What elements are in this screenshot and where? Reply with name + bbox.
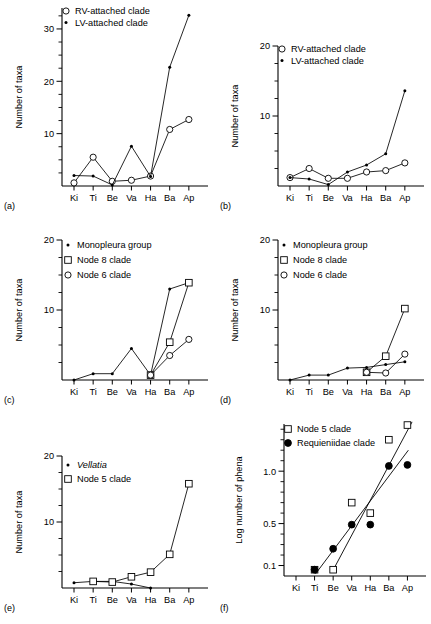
legend-label: Vellatia <box>77 460 107 470</box>
x-tick-label: Ha <box>364 583 377 593</box>
y-tick-label: 10 <box>44 517 54 527</box>
x-tick-label: Ha <box>361 387 374 397</box>
data-point <box>166 339 173 346</box>
data-point <box>90 154 96 160</box>
panel-d-legend: Monopleura groupNode 8 cladeNode 6 clade <box>281 240 368 280</box>
panel-b-series <box>287 89 408 186</box>
legend-marker <box>63 8 69 14</box>
panel-e-legend: VellatiaNode 5 clade <box>65 460 131 484</box>
panel-f-legend: Node 5 cladeRequieniidae clade <box>285 424 376 448</box>
data-point <box>128 573 135 580</box>
x-tick-label: Ki <box>70 193 78 203</box>
data-point <box>167 126 173 132</box>
x-tick-label: Be <box>107 595 118 605</box>
legend-label: Node 6 clade <box>293 270 347 280</box>
panel-e: 1020 KiTiBeVaHaBaAp VellatiaNode 5 clade… <box>0 448 215 624</box>
panel-e-letter: (e) <box>4 603 15 613</box>
data-point <box>383 370 389 376</box>
panel-f-xlabels: KiTiBeVaHaBaAp <box>292 576 413 593</box>
y-tick-label: 30 <box>44 24 54 34</box>
data-point <box>402 351 408 357</box>
data-point <box>92 372 95 375</box>
x-tick-label: Be <box>107 387 118 397</box>
y-tick-label: 10 <box>260 111 270 121</box>
data-point <box>73 581 76 584</box>
panel-f-ylabel: Log number of phena <box>234 455 244 543</box>
x-tick-label: Ba <box>164 387 176 397</box>
legend-label: Node 6 clade <box>77 270 131 280</box>
panel-f-letter: (f) <box>220 603 229 613</box>
data-point <box>149 175 152 178</box>
y-tick-label: 20 <box>44 451 54 461</box>
panel-c-series <box>73 279 193 381</box>
x-tick-label: Be <box>107 193 118 203</box>
series-line <box>93 484 189 582</box>
x-tick-label: Ha <box>145 387 158 397</box>
data-point <box>71 180 77 186</box>
data-point <box>384 152 387 155</box>
data-point <box>186 279 193 286</box>
data-point <box>325 175 331 181</box>
x-tick-label: Ba <box>164 595 176 605</box>
data-point <box>186 336 192 342</box>
x-tick-label: Ti <box>89 595 96 605</box>
legend-marker <box>281 257 288 264</box>
panel-d-series <box>289 305 409 381</box>
panel-d-plot: 1020 KiTiBeVaHaBaAp Monopleura groupNode… <box>216 232 431 414</box>
figure-panel-grid: 102030 KiTiBeVaHaBaAp RV-attached cladeL… <box>0 0 431 624</box>
legend-marker <box>65 21 68 24</box>
data-point <box>363 169 369 175</box>
y-tick-label: 0.5 <box>263 519 276 529</box>
x-tick-label: Va <box>342 193 353 203</box>
data-point <box>383 168 389 174</box>
x-tick-label: Ap <box>399 193 410 203</box>
data-point <box>73 174 76 177</box>
x-tick-label: Va <box>126 387 137 397</box>
legend-marker <box>65 476 72 483</box>
data-point <box>330 545 337 552</box>
legend-marker <box>283 244 286 247</box>
legend-marker <box>281 272 287 278</box>
legend-label: Node 5 clade <box>297 424 351 434</box>
legend-marker <box>65 257 72 264</box>
panel-f-yticks: 0.10.51.0 <box>263 429 284 571</box>
panel-a-axes <box>62 8 208 186</box>
panel-c-yticks: 1020 <box>44 235 62 362</box>
panel-d-xlabels: KiTiBeVaHaBaAp <box>286 380 411 397</box>
data-point <box>92 175 95 178</box>
data-point <box>404 422 411 429</box>
data-point <box>382 353 389 360</box>
legend-label: Monopleura group <box>293 240 368 250</box>
x-tick-label: Va <box>342 387 353 397</box>
x-tick-label: Ap <box>183 595 194 605</box>
legend-label: RV-attached clade <box>291 44 366 54</box>
panel-b-yticks: 1020 <box>260 41 278 168</box>
series-line <box>151 283 189 375</box>
data-point <box>168 288 171 291</box>
x-tick-label: Be <box>323 193 334 203</box>
data-point <box>90 578 97 585</box>
panel-d-letter: (d) <box>220 395 231 405</box>
x-tick-label: Ap <box>183 193 194 203</box>
data-point <box>327 183 330 186</box>
data-point <box>348 499 355 506</box>
x-tick-label: Ti <box>311 583 318 593</box>
x-tick-label: Ti <box>305 387 312 397</box>
x-tick-label: Ti <box>89 387 96 397</box>
legend-label: Node 8 clade <box>77 255 131 265</box>
panel-c-legend: Monopleura groupNode 8 cladeNode 6 clade <box>65 240 152 280</box>
x-tick-label: Ki <box>286 387 294 397</box>
data-point <box>344 175 350 181</box>
x-tick-label: Ki <box>286 193 294 203</box>
data-point <box>147 569 154 576</box>
x-tick-label: Ba <box>380 193 392 203</box>
legend-marker <box>65 272 71 278</box>
legend-label: Requieniidae clade <box>297 438 375 448</box>
data-point <box>130 583 133 586</box>
data-point <box>128 177 134 183</box>
panel-c-xlabels: KiTiBeVaHaBaAp <box>70 380 195 397</box>
data-point <box>187 14 190 17</box>
legend-label: LV-attached clade <box>75 18 148 28</box>
data-point <box>111 372 114 375</box>
data-point <box>367 510 374 517</box>
